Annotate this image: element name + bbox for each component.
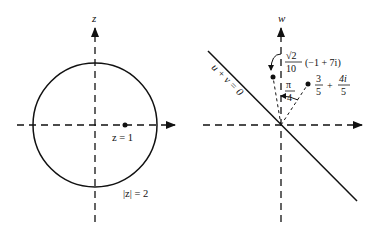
svg-text:√2: √2 [286,50,297,61]
svg-text:+: + [327,80,333,91]
angle-label: π 4 [285,79,295,103]
z-plane: z z = 1 |z| = 2 [17,12,175,222]
svg-text:5: 5 [316,86,321,97]
svg-text:4: 4 [287,92,292,103]
line-label: u + v = 0 [210,62,246,98]
point-b-label: √2 10 (−1 + 7i) [285,50,341,74]
point-a-label: 3 5 + 4i 5 [315,73,350,97]
point-b [271,75,276,80]
circle-label: |z| = 2 [123,188,148,199]
point-a [306,82,311,87]
z-axis-label: z [91,12,97,24]
point-z-equals-1 [123,123,128,128]
w-axis-label: w [278,12,286,24]
svg-text:4i: 4i [339,73,347,84]
svg-text:3: 3 [316,73,321,84]
ray-to-point-a [281,84,308,125]
svg-text:π: π [286,79,291,90]
diagram-canvas: z z = 1 |z| = 2 w u + v = 0 π 4 3 5 [0,0,383,231]
svg-text:(−1 + 7i): (−1 + 7i) [305,57,341,69]
rotation-arc [271,54,281,70]
w-plane: w u + v = 0 π 4 3 5 + 4i 5 √2 [203,12,362,222]
z-equals-1-label: z = 1 [112,132,133,143]
svg-text:5: 5 [341,86,346,97]
svg-text:10: 10 [286,63,296,74]
